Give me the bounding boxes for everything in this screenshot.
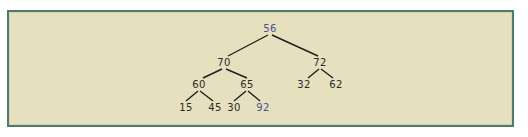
edge-72-62 xyxy=(321,69,333,78)
edge-72-32 xyxy=(308,69,319,78)
tree-node-leaf: 15 xyxy=(179,102,192,113)
tree-node: 65 xyxy=(240,79,253,90)
binary-tree-diagram: 56 70 72 60 65 32 62 15 45 30 92 xyxy=(0,0,528,137)
edge-56-72 xyxy=(272,35,318,56)
tree-node-leaf: 30 xyxy=(227,102,240,113)
tree-node: 70 xyxy=(217,57,230,68)
tree-node-root: 56 xyxy=(263,23,276,34)
edge-70-60 xyxy=(203,69,222,78)
edge-60-15 xyxy=(186,91,198,101)
edge-56-70 xyxy=(228,35,268,56)
tree-node-leaf-highlighted: 92 xyxy=(256,102,269,113)
edge-60-45 xyxy=(200,91,213,101)
tree-node: 60 xyxy=(192,79,205,90)
edge-70-65 xyxy=(226,69,247,78)
tree-node: 72 xyxy=(313,57,326,68)
edge-65-92 xyxy=(248,91,260,101)
tree-edges xyxy=(186,35,333,101)
edge-65-30 xyxy=(234,91,246,101)
tree-node-leaf: 45 xyxy=(208,102,221,113)
tree-nodes: 56 70 72 60 65 32 62 15 45 30 92 xyxy=(179,23,342,113)
tree-node: 62 xyxy=(329,79,342,90)
tree-node: 32 xyxy=(297,79,310,90)
